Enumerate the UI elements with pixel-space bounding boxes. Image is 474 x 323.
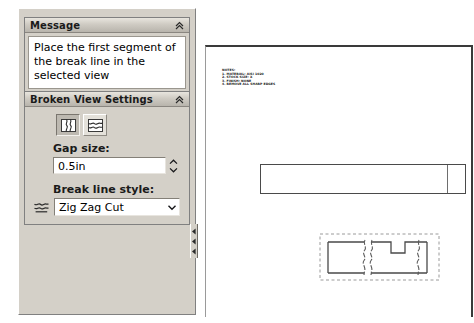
zig-zag-cut-icon <box>32 198 50 216</box>
add-horizontal-break-line-button[interactable] <box>83 114 107 136</box>
break-orientation-button-group <box>25 107 189 142</box>
chevron-down-icon[interactable] <box>165 204 179 211</box>
chevron-up-icon[interactable] <box>169 158 178 166</box>
double-chevron-up-icon[interactable] <box>173 19 186 32</box>
drawing-notes-block: NOTES: 1. MATERIAL: AISI 1020 2. STOCK S… <box>222 69 275 87</box>
break-line-1 <box>363 240 365 275</box>
drawing-view-unbroken[interactable] <box>260 164 466 194</box>
break-line-style-label: Break line style: <box>25 183 189 196</box>
property-manager-panel: Message Place the first segment of the b… <box>18 8 196 315</box>
gap-size-stepper[interactable] <box>167 157 180 174</box>
message-panel: Message Place the first segment of the b… <box>24 17 190 93</box>
gap-size-input[interactable]: 0.5in <box>53 157 166 174</box>
left-arrow-icon[interactable] <box>191 248 197 255</box>
drawing-view-broken-preview[interactable] <box>319 233 440 281</box>
left-arrow-icon[interactable] <box>191 228 197 235</box>
panel-splitter-handle[interactable] <box>190 224 198 258</box>
broken-view-settings-panel: Broken View Settings <box>24 91 190 225</box>
double-chevron-up-icon[interactable] <box>173 93 186 106</box>
break-line-style-value: Zig Zag Cut <box>59 201 165 214</box>
message-panel-header[interactable]: Message <box>25 18 189 33</box>
message-text: Place the first segment of the break lin… <box>28 36 186 89</box>
vertical-break-icon <box>60 118 77 133</box>
broken-view-settings-header[interactable]: Broken View Settings <box>25 92 189 107</box>
message-panel-title: Message <box>30 20 173 31</box>
chevron-down-icon[interactable] <box>169 166 178 174</box>
break-line-style-dropdown[interactable]: Zig Zag Cut <box>54 198 180 216</box>
break-line-2 <box>370 240 372 275</box>
add-vertical-break-line-button[interactable] <box>56 114 80 136</box>
broken-view-settings-title: Broken View Settings <box>30 94 173 105</box>
break-line-3 <box>417 240 419 275</box>
view-edge-line <box>447 165 448 193</box>
part-outline-middle <box>371 242 418 273</box>
left-arrow-icon[interactable] <box>191 238 197 245</box>
gap-size-row: 0.5in <box>25 157 189 174</box>
horizontal-break-icon <box>87 118 104 133</box>
gap-size-label: Gap size: <box>25 142 189 155</box>
part-outline-left <box>328 242 364 273</box>
drawing-note-line: 4. REMOVE ALL SHARP EDGES <box>222 83 275 87</box>
break-line-style-row: Zig Zag Cut <box>25 198 189 216</box>
drawing-sheet-canvas[interactable]: NOTES: 1. MATERIAL: AISI 1020 2. STOCK S… <box>205 45 473 317</box>
